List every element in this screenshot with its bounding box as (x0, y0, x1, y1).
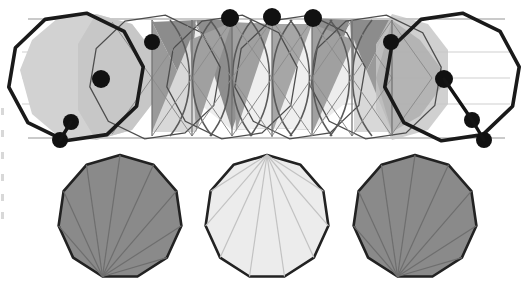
vertex-dot-v8 (383, 34, 399, 50)
left-edge-scan-marks (0, 108, 6, 216)
scan-mark-5 (1, 194, 4, 201)
figure-canvas (0, 0, 531, 293)
vertex-dot-v4 (144, 34, 160, 50)
geometric-figure (0, 0, 531, 293)
scan-mark-6 (1, 212, 4, 219)
top-band-group (9, 8, 519, 148)
face-outline (206, 155, 329, 277)
scan-mark-4 (1, 174, 4, 181)
polygon-face-face-right (354, 155, 477, 277)
band-cell-shading (20, 14, 448, 140)
vertex-dot-v7 (304, 9, 322, 27)
vertex-dot-v3 (92, 70, 110, 88)
scan-mark-3 (1, 152, 4, 159)
polygon-face-face-middle (206, 155, 329, 277)
bottom-face-row (59, 155, 477, 277)
vertex-dot-v5 (221, 9, 239, 27)
scan-mark-1 (1, 108, 4, 115)
polygon-face-face-left (59, 155, 182, 277)
scan-mark-2 (1, 130, 4, 137)
vertex-dot-v6 (263, 8, 281, 26)
